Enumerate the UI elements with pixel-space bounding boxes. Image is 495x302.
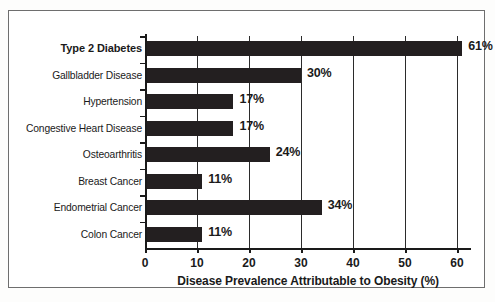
x-tick-mark-40 [353,248,355,253]
bar-value-label: 24% [276,145,300,159]
category-label: Hypertension [9,94,142,109]
category-label: Type 2 Diabetes [9,41,142,56]
bar [145,147,270,162]
bar-row: 61% [145,36,467,63]
bar-row: 24% [145,142,467,169]
y-tick-mark [140,63,145,65]
x-tick-mark-10 [197,248,199,253]
bar-value-label: 34% [328,198,352,212]
x-tick-label: 20 [229,256,269,270]
bar-value-label: 30% [307,66,331,80]
bar-row: 30% [145,63,467,90]
y-tick-mark [140,169,145,171]
category-label: Osteoarthritis [9,147,142,162]
x-tick-mark-60 [457,248,459,253]
bar-row: 11% [145,222,467,249]
x-tick-label: 0 [125,256,165,270]
bar-value-label: 11% [208,172,232,186]
category-label: Endometrial Cancer [9,200,142,215]
bar [145,94,233,109]
x-tick-label: 50 [385,256,425,270]
x-tick-label: 10 [177,256,217,270]
x-tick-mark-0 [145,248,147,253]
y-tick-mark [140,36,145,38]
bar [145,200,322,215]
x-axis-line [145,248,471,250]
chart-figure: Type 2 DiabetesGallbladder DiseaseHypert… [0,0,495,302]
chart-frame: Type 2 DiabetesGallbladder DiseaseHypert… [8,10,485,288]
x-axis-title: Disease Prevalence Attributable to Obesi… [145,274,471,288]
bar-row: 34% [145,195,467,222]
bar-row: 11% [145,169,467,196]
bar-value-label: 17% [239,119,263,133]
category-label: Colon Cancer [9,227,142,242]
y-tick-mark [140,142,145,144]
category-label: Breast Cancer [9,174,142,189]
x-tick-mark-50 [405,248,407,253]
category-axis-labels: Type 2 DiabetesGallbladder DiseaseHypert… [9,36,142,248]
bar [145,174,202,189]
bar-row: 17% [145,89,467,116]
plot-area: 61%30%17%17%24%11%34%11% [145,36,467,248]
x-tick-mark-20 [249,248,251,253]
y-tick-mark [140,222,145,224]
bar-row: 17% [145,116,467,143]
bar-value-label: 61% [468,39,492,53]
bar [145,41,462,56]
category-label: Congestive Heart Disease [9,121,142,136]
bar-value-label: 11% [208,225,232,239]
y-tick-mark [140,89,145,91]
x-tick-mark-30 [301,248,303,253]
bar-value-label: 17% [239,92,263,106]
bar [145,121,233,136]
bar [145,227,202,242]
x-tick-label: 40 [333,256,373,270]
category-label: Gallbladder Disease [9,68,142,83]
x-tick-label: 60 [437,256,477,270]
y-axis-line [145,34,147,250]
y-tick-mark [140,116,145,118]
x-tick-label: 30 [281,256,321,270]
bar [145,68,301,83]
y-tick-mark [140,195,145,197]
